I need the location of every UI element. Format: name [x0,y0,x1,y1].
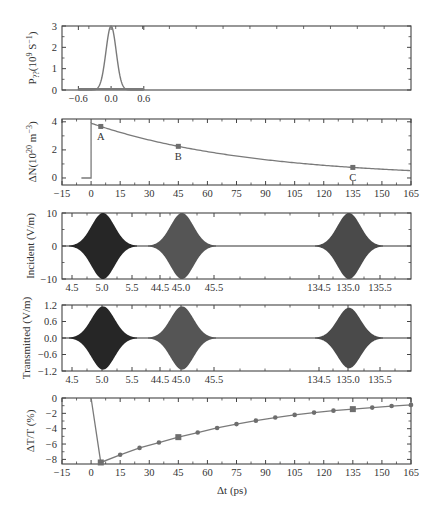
x-tick-label: 120 [316,467,332,478]
data-point [409,403,414,408]
x-tick-label: 60 [202,467,213,478]
y-tick-label: −2 [46,408,57,419]
data-point [292,413,297,418]
x-tick-label: 135 [345,467,361,478]
x-axis-label: Δt (ps) [217,484,247,497]
y-tick-label: 0.0 [44,333,57,344]
x-tick-label: 5.0 [95,282,108,293]
x-tick-label: 4.5 [65,282,78,293]
x-tick-label: −0.6 [69,93,88,104]
y-tick-label: 1.2 [44,300,57,311]
x-tick-label: 5.0 [95,374,108,385]
x-tick-label: 120 [316,188,332,199]
x-tick-label: 75 [231,188,242,199]
incident-field-panel: −100104.55.05.544.545.045.5134.5135.0135… [24,208,411,294]
y-tick-label: 4 [52,116,58,127]
y-tick-label: 10 [47,208,58,219]
x-tick-label: 45.5 [205,374,223,385]
y-tick-label: 3 [52,21,57,32]
point-label-a: A [97,131,105,142]
data-point [312,410,317,415]
x-tick-label: 150 [374,467,390,478]
x-tick-label: 90 [260,188,271,199]
y-tick-label: 1 [52,63,57,74]
data-point [215,426,220,431]
x-tick-label: 45.5 [205,282,223,293]
y-axis-label: ΔT/T (%) [24,409,37,452]
highlighted-data-point [98,459,104,465]
marker-c [350,165,355,170]
x-tick-label: 75 [231,467,242,478]
point-label-c: C [349,172,356,183]
pulse-envelope-2 [148,213,216,279]
y-tick-label: 0 [52,241,57,252]
x-tick-label: 45.0 [172,374,190,385]
y-tick-label: 0 [52,172,57,183]
x-tick-label: 135.0 [336,282,360,293]
x-tick-label: −15 [54,188,70,199]
highlighted-data-point [175,434,181,440]
x-tick-label: 135.5 [368,374,392,385]
x-tick-label: 30 [144,467,155,478]
pulse-envelope-1 [69,306,137,369]
data-point [118,452,123,457]
y-tick-label: −6 [46,439,57,450]
highlighted-data-point [350,406,356,412]
data-point [389,404,394,409]
y-tick-label: −0.6 [38,349,57,360]
y-axis-label: P??(109 S−1) [25,31,41,84]
x-tick-label: 4.5 [65,374,78,385]
x-tick-label: 135.0 [336,374,360,385]
pulse-envelope-3 [315,213,383,279]
marker-a [98,124,103,129]
dtt-curve [91,398,411,462]
y-tick-label: −4 [46,423,58,434]
x-tick-label: 0.0 [105,93,118,104]
data-point [331,408,336,413]
data-point [234,422,239,427]
x-tick-label: 60 [202,188,213,199]
y-tick-label: 2 [52,42,57,53]
x-tick-label: 105 [287,467,303,478]
pulse-envelope-3 [315,308,383,369]
x-tick-label: 165 [403,188,419,199]
x-tick-label: 135 [345,188,361,199]
x-tick-label: 135.5 [368,282,392,293]
x-tick-label: 45 [173,467,184,478]
y-tick-label: 0.6 [44,316,57,327]
data-point [195,430,200,435]
figure: 0123−0.60.00.6P??(109 S−1) 024−150153045… [0,0,434,517]
y-tick-label: 0 [52,85,57,96]
x-tick-label: 44.5 [151,282,169,293]
x-tick-label: 105 [287,188,303,199]
y-tick-label: 0 [52,393,57,404]
y-tick-label: −10 [41,274,57,285]
data-point [137,446,142,451]
x-tick-label: 30 [144,188,155,199]
x-tick-label: 134.5 [307,282,331,293]
marker-b [176,144,181,149]
x-tick-label: −15 [54,467,70,478]
y-tick-label: −8 [46,454,57,465]
data-point [157,440,162,445]
transmitted-field-panel: −1.2−0.60.00.61.24.55.05.544.545.045.513… [20,296,411,385]
x-tick-label: 0 [88,467,93,478]
point-label-b: B [175,151,182,162]
x-tick-label: 45 [173,188,184,199]
x-tick-label: 90 [260,467,271,478]
x-tick-label: 165 [403,467,419,478]
carrier-density-curve [81,123,410,178]
x-tick-label: 5.5 [125,282,138,293]
x-tick-label: 150 [374,188,390,199]
x-tick-label: 44.5 [151,374,169,385]
y-axis-label: Transmitted (V/m) [20,296,33,379]
x-tick-label: 5.5 [125,374,138,385]
pulse-envelope-1 [69,213,137,279]
x-tick-label: 45.0 [172,282,190,293]
data-point [254,418,259,423]
x-tick-label: 0.6 [137,93,150,104]
pump-curve [78,26,143,90]
plot-frame [62,119,411,185]
pulse-envelope-2 [148,306,216,369]
plot-frame [62,398,411,464]
